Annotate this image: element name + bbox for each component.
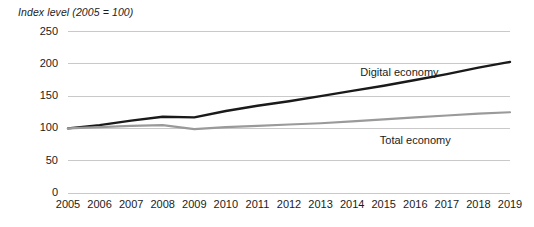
x-axis-tick-label: 2010 <box>214 198 238 210</box>
x-axis-tick-label: 2013 <box>308 198 332 210</box>
x-axis-tick-label: 2017 <box>435 198 459 210</box>
series-lines-group <box>68 62 510 129</box>
x-axis-tick-label: 2007 <box>119 198 143 210</box>
plot-area <box>0 0 534 227</box>
series-label-digital-economy: Digital economy <box>360 66 438 78</box>
x-axis-tick-label: 2009 <box>182 198 206 210</box>
y-axis-tick-label: 100 <box>18 121 58 133</box>
y-axis-tick-label: 50 <box>18 154 58 166</box>
series-label-total-economy: Total economy <box>380 134 451 146</box>
index-level-line-chart: Index level (2005 = 100) 050100150200250… <box>0 0 534 227</box>
y-axis-tick-label: 250 <box>18 25 58 37</box>
x-axis-tick-label: 2011 <box>246 198 270 210</box>
series-line-digital-economy <box>68 62 510 129</box>
gridlines-group <box>68 32 510 194</box>
x-axis-tick-label: 2012 <box>277 198 301 210</box>
y-axis-tick-label: 0 <box>18 186 58 198</box>
x-axis-tick-label: 2008 <box>150 198 174 210</box>
x-axis-tick-label: 2015 <box>371 198 395 210</box>
y-axis-tick-label: 200 <box>18 57 58 69</box>
y-axis-tick-label: 150 <box>18 89 58 101</box>
x-axis-tick-label: 2006 <box>87 198 111 210</box>
x-axis-tick-label: 2005 <box>56 198 80 210</box>
x-axis-tick-label: 2018 <box>466 198 490 210</box>
x-axis-tick-label: 2019 <box>498 198 522 210</box>
x-axis-tick-label: 2014 <box>340 198 364 210</box>
x-axis-tick-label: 2016 <box>403 198 427 210</box>
